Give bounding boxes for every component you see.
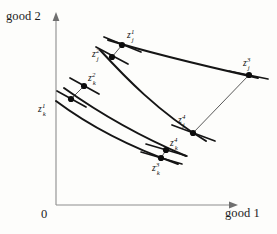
figure-canvas: good 2 good 1 0 z1j z2j z3j z4j z1k z2k … <box>0 0 277 234</box>
indifference-curve-k-lower <box>56 101 178 164</box>
indifference-curve-j-upper <box>108 40 258 78</box>
point-label-z4j-subscript: j <box>183 121 185 128</box>
point-marker-z1k <box>68 96 74 102</box>
point-marker-z4j <box>190 130 196 136</box>
point-label-z4k-superscript: 4 <box>174 136 177 143</box>
indifference-curve-figure <box>0 0 277 234</box>
point-label-z1k-superscript: 1 <box>42 102 45 109</box>
point-label-z1j-subscript: j <box>132 36 134 43</box>
point-label-z4k: z4k <box>170 137 180 151</box>
point-marker-z4k <box>163 147 169 153</box>
point-label-z2j-superscript: 2 <box>96 47 99 54</box>
point-label-z4j: z4j <box>178 114 187 128</box>
connector-z3j-z4j <box>193 75 249 133</box>
point-label-z3k: z3k <box>152 162 162 176</box>
point-label-z2k-superscript: 2 <box>92 71 95 78</box>
point-marker-z2k <box>81 83 87 89</box>
curve-group <box>56 40 258 164</box>
point-label-z3j-subscript: j <box>248 64 250 71</box>
point-label-z3j: z3j <box>243 57 252 71</box>
axis-group <box>53 12 238 208</box>
point-label-z2k: z2k <box>88 72 98 86</box>
point-label-z2k-subscript: k <box>93 79 96 86</box>
point-label-z4k-subscript: k <box>175 144 178 151</box>
point-label-z2j-subscript: j <box>97 55 99 62</box>
indifference-curve-j-lower <box>100 50 206 141</box>
point-label-z1k-subscript: k <box>43 110 46 117</box>
y-axis-arrowhead <box>53 12 60 21</box>
point-label-z1k: z1k <box>38 103 48 117</box>
point-label-z3k-superscript: 3 <box>156 161 159 168</box>
point-label-z2j: z2j <box>92 48 101 62</box>
point-marker-z3j <box>246 72 252 78</box>
indifference-curve-k-upper <box>64 88 186 156</box>
point-label-z3k-subscript: k <box>157 169 160 176</box>
origin-label: 0 <box>41 207 47 222</box>
point-label-z1j: z1j <box>127 29 136 43</box>
point-label-z3j-superscript: 3 <box>247 56 250 63</box>
point-label-z4j-superscript: 4 <box>182 113 185 120</box>
y-axis-label: good 2 <box>6 9 41 24</box>
point-marker-z1j <box>119 42 125 48</box>
point-label-z1j-superscript: 1 <box>131 28 134 35</box>
point-marker-z2j <box>109 54 115 60</box>
x-axis-label: good 1 <box>225 206 260 221</box>
